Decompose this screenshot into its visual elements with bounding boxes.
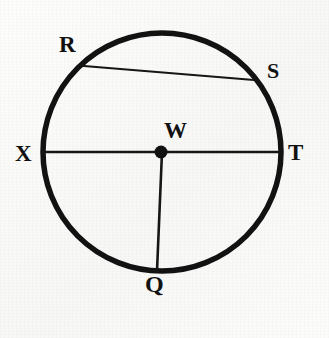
segment-chord-RS xyxy=(84,66,254,80)
diagram-canvas: R S W X T Q xyxy=(0,0,329,338)
point-label-S: S xyxy=(267,60,279,82)
segment-radius-WQ xyxy=(157,152,162,271)
point-label-Q: Q xyxy=(145,272,164,296)
center-point-dot-W xyxy=(155,146,168,159)
point-label-X: X xyxy=(15,142,32,165)
point-label-R: R xyxy=(59,33,76,56)
point-label-W: W xyxy=(164,119,187,142)
point-label-T: T xyxy=(288,141,303,164)
circle-diagram-figure xyxy=(0,0,329,338)
